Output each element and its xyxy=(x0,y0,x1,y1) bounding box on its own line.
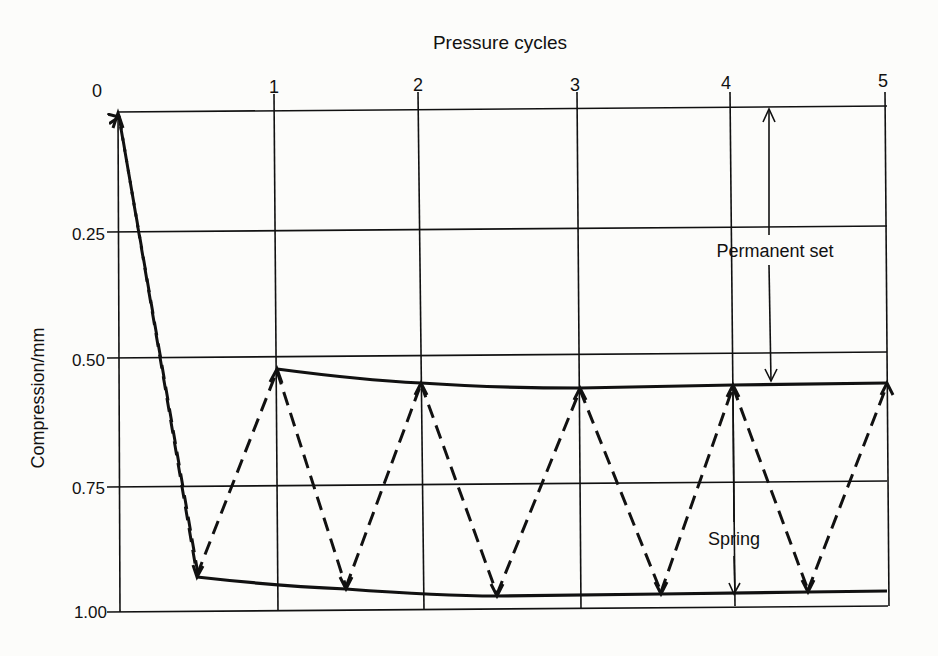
arrowhead-trough-3-icon xyxy=(491,584,503,596)
chart-title: Pressure cycles xyxy=(433,32,567,53)
spring-annotation xyxy=(729,392,740,594)
y-tick-labels: 0.25 0.50 0.75 1.00 xyxy=(72,225,107,622)
upper-envelope-line xyxy=(277,369,887,388)
y-tick-075: 0.75 xyxy=(72,479,105,498)
y-tick-050: 0.50 xyxy=(72,351,105,370)
x-tick-1: 1 xyxy=(269,77,279,97)
lower-envelope-line xyxy=(197,577,887,596)
y-tick-025: 0.25 xyxy=(72,225,105,244)
x-tick-3: 3 xyxy=(570,75,580,95)
x-tick-2: 2 xyxy=(413,75,423,95)
compression-chart: Pressure cycles Compression/mm 0 1 2 3 4… xyxy=(0,0,938,656)
permanent-set-label: Permanent set xyxy=(716,241,833,261)
vertical-gridlines xyxy=(118,92,889,612)
x-tick-5: 5 xyxy=(878,71,888,91)
x-tick-0: 0 xyxy=(92,81,102,101)
y-axis-label: Compression/mm xyxy=(28,327,48,468)
spring-label: Spring xyxy=(708,529,760,549)
x-tick-4: 4 xyxy=(721,73,731,93)
y-tick-100: 1.00 xyxy=(74,603,107,622)
x-tick-labels: 0 1 2 3 4 5 xyxy=(92,71,888,101)
